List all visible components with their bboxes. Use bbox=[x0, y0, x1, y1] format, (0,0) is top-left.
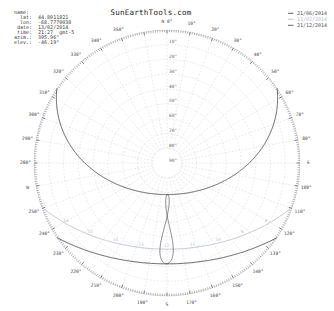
svg-text:90°: 90° bbox=[169, 158, 177, 163]
svg-text:E: E bbox=[307, 160, 310, 165]
polar-chart: 10°20°30°40°50°60°70°80°90°N 0°10°20°30°… bbox=[20, 19, 312, 307]
svg-text:17: 17 bbox=[40, 202, 46, 207]
svg-text:250°: 250° bbox=[28, 209, 39, 214]
svg-text:150°: 150° bbox=[232, 283, 243, 288]
svg-text:11: 11 bbox=[190, 242, 196, 247]
svg-text:190°: 190° bbox=[137, 300, 148, 305]
svg-text:280°: 280° bbox=[20, 160, 31, 165]
svg-text:230°: 230° bbox=[53, 251, 64, 256]
svg-text:15: 15 bbox=[88, 229, 94, 234]
svg-text:30°: 30° bbox=[234, 38, 243, 43]
svg-text:310°: 310° bbox=[39, 90, 50, 95]
svg-text:210°: 210° bbox=[91, 283, 102, 288]
svg-text:340°: 340° bbox=[91, 38, 102, 43]
svg-text:70°: 70° bbox=[296, 112, 305, 117]
svg-text:40°: 40° bbox=[254, 52, 263, 57]
svg-text:50°: 50° bbox=[169, 98, 177, 103]
svg-text:300°: 300° bbox=[28, 112, 39, 117]
svg-text:100°: 100° bbox=[301, 185, 312, 190]
date-legend: 21/06/201413/02/201421/12/2014 bbox=[288, 10, 327, 28]
svg-text:10°: 10° bbox=[187, 21, 196, 26]
site-title: SunEarthTools.com bbox=[110, 8, 191, 17]
svg-text:16: 16 bbox=[63, 218, 69, 223]
svg-text:S: S bbox=[166, 302, 169, 307]
svg-text:50°: 50° bbox=[271, 69, 280, 74]
svg-text:10°: 10° bbox=[169, 39, 177, 44]
svg-text:290°: 290° bbox=[22, 136, 33, 141]
svg-text:8: 8 bbox=[265, 218, 268, 223]
svg-text:60°: 60° bbox=[169, 113, 177, 118]
svg-text:14: 14 bbox=[113, 237, 119, 242]
svg-text:110°: 110° bbox=[294, 209, 305, 214]
svg-text:10: 10 bbox=[215, 237, 221, 242]
svg-text:40°: 40° bbox=[169, 84, 177, 89]
legend-label: 21/12/2014 bbox=[297, 22, 327, 28]
svg-text:W: W bbox=[26, 185, 29, 190]
svg-text:12: 12 bbox=[164, 243, 170, 248]
svg-text:320°: 320° bbox=[53, 69, 64, 74]
svg-text:350°: 350° bbox=[113, 27, 124, 32]
sun-path-diagram: name: lat: 44.8011821 lon: -68.7770038 d… bbox=[0, 0, 334, 311]
sunearthtools-sunpath-page: name: lat: 44.8011821 lon: -68.7770038 d… bbox=[0, 0, 334, 311]
svg-text:30°: 30° bbox=[169, 69, 177, 74]
svg-text:80°: 80° bbox=[169, 143, 177, 148]
noon-analemma-loop bbox=[160, 195, 173, 264]
svg-text:20°: 20° bbox=[169, 54, 177, 59]
svg-text:140°: 140° bbox=[252, 269, 263, 274]
svg-text:13: 13 bbox=[138, 242, 144, 247]
svg-text:20°: 20° bbox=[211, 27, 220, 32]
svg-text:80°: 80° bbox=[302, 136, 311, 141]
svg-text:N 0°: N 0° bbox=[161, 19, 172, 24]
svg-text:200°: 200° bbox=[113, 293, 124, 298]
svg-text:9: 9 bbox=[240, 229, 243, 234]
svg-text:60°: 60° bbox=[285, 90, 294, 95]
elevation-labels: 10°20°30°40°50°60°70°80°90° bbox=[169, 39, 177, 162]
svg-text:220°: 220° bbox=[71, 269, 82, 274]
svg-text:160°: 160° bbox=[210, 293, 221, 298]
svg-text:130°: 130° bbox=[270, 251, 281, 256]
svg-text:120°: 120° bbox=[284, 231, 295, 236]
info-line-elev: elev.: -46.19° bbox=[14, 39, 59, 45]
svg-text:170°: 170° bbox=[186, 300, 197, 305]
svg-text:330°: 330° bbox=[71, 52, 82, 57]
svg-text:70°: 70° bbox=[169, 128, 177, 133]
svg-text:240°: 240° bbox=[39, 231, 50, 236]
location-info-box: name: lat: 44.8011821 lon: -68.7770038 d… bbox=[14, 9, 74, 45]
